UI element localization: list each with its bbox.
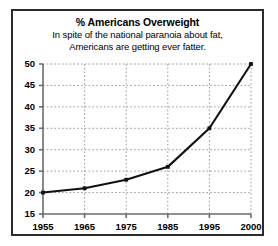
y-axis-tick-label: 35: [13, 123, 35, 133]
y-axis-tick-label: 30: [13, 145, 35, 155]
chart-canvas: [13, 11, 266, 238]
x-axis-tick-label: 1975: [106, 222, 146, 232]
y-axis-tick-label: 45: [13, 80, 35, 90]
x-axis-tick-label: 2000: [231, 222, 271, 232]
x-axis-tick-label: 1995: [189, 222, 229, 232]
x-axis-tick-label: 1955: [23, 222, 63, 232]
vertical-gridlines: [85, 64, 251, 214]
x-axis-tick-label: 1965: [65, 222, 105, 232]
y-axis-tick-label: 40: [13, 102, 35, 112]
plot-area: 1520253035404550 19551965197519851995200…: [13, 11, 266, 238]
y-axis-tick-label: 20: [13, 188, 35, 198]
y-axis-tick-label: 15: [13, 209, 35, 219]
chart-frame: % Americans Overweight In spite of the n…: [11, 9, 264, 236]
x-axis-tick-label: 1985: [148, 222, 188, 232]
y-axis-tick-label: 50: [13, 59, 35, 69]
y-axis-tick-label: 25: [13, 166, 35, 176]
